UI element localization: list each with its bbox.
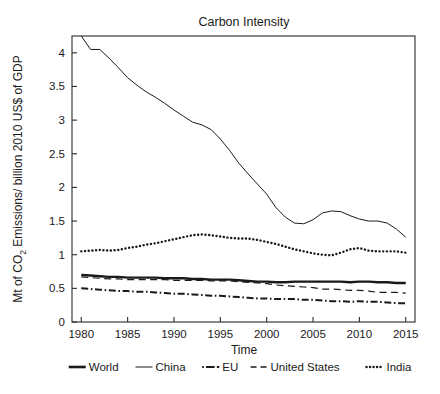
y-tick-label: 0.5 <box>49 282 65 294</box>
chart-legend: WorldChinaEUUnited StatesIndia <box>69 361 412 373</box>
y-tick-label: 2.5 <box>49 148 65 160</box>
legend-label: United States <box>271 361 340 373</box>
y-tick-label: 4 <box>59 47 66 59</box>
legend-item-world[interactable]: World <box>69 361 119 373</box>
legend-label: EU <box>222 361 238 373</box>
y-tick-label: 3 <box>59 114 65 126</box>
series-line-china <box>81 36 405 237</box>
series-layer <box>81 36 405 303</box>
y-axis-title-post: Emissions/ billion 2010 US$ of GDP <box>11 55 25 250</box>
y-tick-label: 0 <box>59 316 65 328</box>
x-tick-label: 1980 <box>68 328 94 340</box>
y-tick-label: 3.5 <box>49 80 65 92</box>
series-line-united-states <box>81 277 405 293</box>
x-tick-label: 1995 <box>208 328 234 340</box>
plot-frame <box>72 36 415 322</box>
y-axis-title: Mt of CO2 Emissions/ billion 2010 US$ of… <box>11 55 28 303</box>
legend-item-eu[interactable]: EU <box>202 361 238 373</box>
x-axis-ticks: 19801985199019952000200520102015 <box>68 317 418 340</box>
legend-label: World <box>89 361 119 373</box>
carbon-intensity-figure: Carbon Intensity Mt of CO2 Emissions/ bi… <box>0 0 440 394</box>
x-tick-label: 2010 <box>347 328 373 340</box>
x-tick-label: 1985 <box>115 328 141 340</box>
legend-item-china[interactable]: China <box>136 361 187 373</box>
legend-item-united-states[interactable]: United States <box>251 361 340 373</box>
x-tick-label: 2005 <box>300 328 326 340</box>
x-tick-label: 2000 <box>254 328 280 340</box>
y-tick-label: 1.5 <box>49 215 65 227</box>
legend-label: India <box>387 361 413 373</box>
svg-text:Mt of CO2 Emissions/ billion 2: Mt of CO2 Emissions/ billion 2010 US$ of… <box>11 55 28 303</box>
x-tick-label: 2015 <box>393 328 419 340</box>
y-tick-label: 2 <box>59 181 65 193</box>
x-tick-label: 1990 <box>161 328 187 340</box>
y-tick-label: 1 <box>59 249 65 261</box>
legend-item-india[interactable]: India <box>367 361 413 373</box>
chart-title: Carbon Intensity <box>198 15 290 29</box>
y-axis-ticks: 00.511.522.533.54 <box>49 47 77 328</box>
legend-label: China <box>156 361 187 373</box>
y-axis-title-pre: Mt of CO <box>11 255 25 303</box>
series-line-india <box>81 235 405 256</box>
x-axis-title: Time <box>231 343 258 357</box>
chart-canvas: Carbon Intensity Mt of CO2 Emissions/ bi… <box>0 0 440 394</box>
